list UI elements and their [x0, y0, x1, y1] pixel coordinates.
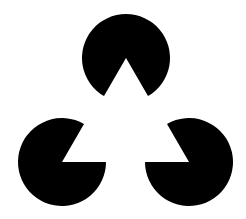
kanizsa-illusion-canvas — [0, 0, 246, 219]
